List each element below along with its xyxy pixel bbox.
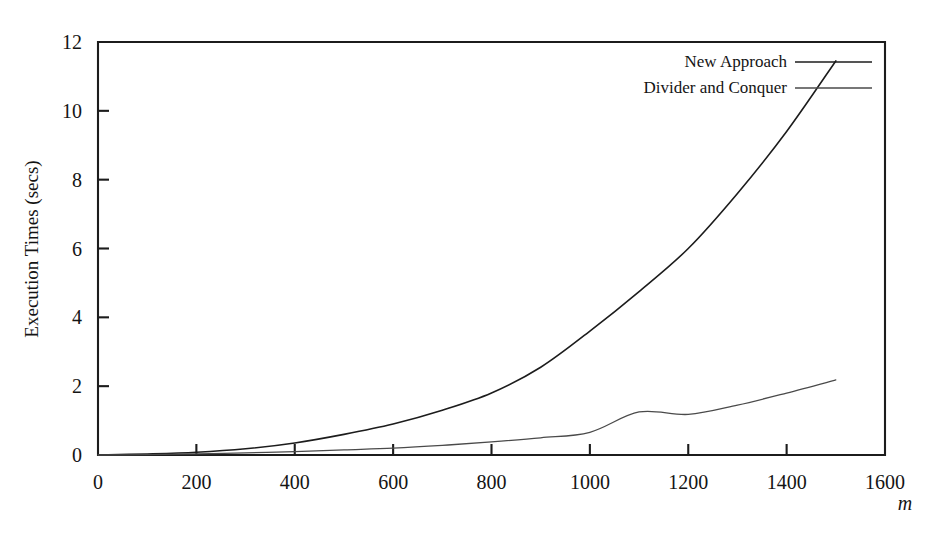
x-tick-label: 1000 xyxy=(570,471,610,493)
y-tick-label: 4 xyxy=(72,306,82,328)
legend-label-new-approach: New Approach xyxy=(685,52,788,71)
chart-figure: 024681012 02004006008001000120014001600 … xyxy=(0,0,946,536)
x-axis-title: m xyxy=(898,492,912,514)
y-tick-label: 12 xyxy=(62,31,82,53)
y-tick-label: 8 xyxy=(72,169,82,191)
y-tick-label: 6 xyxy=(72,238,82,260)
legend-label-divider-and-conquer: Divider and Conquer xyxy=(643,78,787,97)
x-tick-label: 0 xyxy=(93,471,103,493)
x-tick-label: 600 xyxy=(378,471,408,493)
x-tick-label: 1400 xyxy=(767,471,807,493)
y-tick-label: 10 xyxy=(62,100,82,122)
x-tick-label: 400 xyxy=(280,471,310,493)
x-tick-label: 1600 xyxy=(865,471,905,493)
x-tick-label: 1200 xyxy=(668,471,708,493)
execution-times-line-chart: 024681012 02004006008001000120014001600 … xyxy=(0,0,946,536)
y-axis-title: Execution Times (secs) xyxy=(21,160,43,337)
x-tick-label: 800 xyxy=(477,471,507,493)
x-tick-label: 200 xyxy=(181,471,211,493)
y-tick-label: 2 xyxy=(72,375,82,397)
y-tick-label: 0 xyxy=(72,444,82,466)
